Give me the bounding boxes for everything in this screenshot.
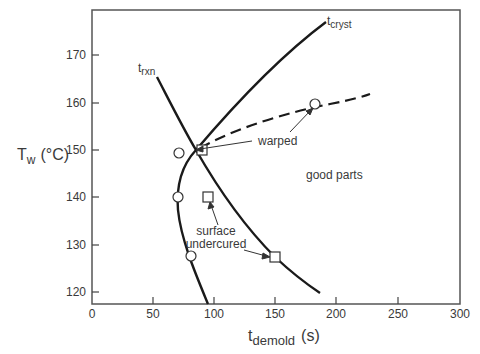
y-tick-label: 140 xyxy=(66,190,86,204)
t-rxn-curve xyxy=(157,77,320,293)
x-tick-labels: 0 50 100 150 200 250 300 xyxy=(89,307,471,321)
y-tick-label: 160 xyxy=(66,96,86,110)
x-tick-label: 50 xyxy=(146,307,160,321)
t-cryst-curve xyxy=(178,22,326,304)
circle-marker xyxy=(310,99,320,109)
y-axis-title: Tw(°C) xyxy=(17,146,69,167)
good-parts-label: good parts xyxy=(306,168,363,182)
y-tick-labels: 120 130 140 150 160 170 xyxy=(66,48,86,299)
square-marker xyxy=(203,192,213,202)
t-rxn-label: trxn xyxy=(138,61,155,77)
t-cryst-label: tcryst xyxy=(327,14,352,30)
circle-marker xyxy=(186,251,196,261)
y-axis xyxy=(92,55,99,292)
x-axis xyxy=(153,297,398,304)
warped-label: warped xyxy=(257,134,297,148)
x-tick-label: 150 xyxy=(265,307,285,321)
y-tick-label: 120 xyxy=(66,285,86,299)
circle-marker xyxy=(174,148,184,158)
y-tick-label: 170 xyxy=(66,48,86,62)
circle-marker xyxy=(173,192,183,202)
x-tick-label: 0 xyxy=(89,307,96,321)
x-tick-label: 100 xyxy=(204,307,224,321)
surface-label: surface xyxy=(196,224,236,238)
x-tick-label: 250 xyxy=(388,307,408,321)
x-tick-label: 300 xyxy=(450,307,470,321)
square-marker xyxy=(270,252,280,262)
x-axis-title: tdemold(s) xyxy=(248,327,320,348)
y-tick-label: 130 xyxy=(66,238,86,252)
x-tick-label: 200 xyxy=(326,307,346,321)
undercured-label: undercured xyxy=(186,237,247,251)
chart: 120 130 140 150 160 170 0 50 100 150 200… xyxy=(0,0,480,354)
